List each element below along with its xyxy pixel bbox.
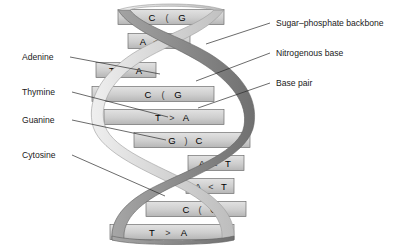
base-letter-right: T [221, 181, 227, 192]
base-bond-glyph: > [165, 228, 170, 238]
base-bond-glyph: > [169, 113, 174, 123]
base-letter-right: G [174, 89, 181, 100]
base-pair-rung: T > A [104, 110, 224, 125]
dna-diagram-figure: C ( G A < T T > A C ( G [0, 0, 413, 247]
base-letter-left: T [155, 112, 161, 123]
base-letter-left: T [149, 227, 155, 238]
base-letter-left: A [140, 36, 147, 47]
base-bond-glyph: ) [185, 136, 188, 146]
base-letter-left: C [183, 204, 190, 215]
base-bond-glyph: ( [199, 205, 202, 215]
label-thymine: Thymine [22, 87, 55, 97]
base-bond-glyph: < [208, 182, 213, 192]
base-bond-glyph: ( [166, 13, 169, 23]
base-letter-left: C [149, 12, 156, 23]
base-letter-right: C [196, 135, 203, 146]
label-cytosine: Cytosine [22, 150, 56, 160]
base-bond-glyph: ( [162, 90, 165, 100]
helix-top-arc [118, 4, 224, 10]
label-adenine: Adenine [22, 52, 54, 62]
base-pair-rung: C ( G [146, 202, 246, 217]
label-nitrogenous-base: Nitrogenous base [276, 48, 344, 58]
leader-line-sugar-phosphate-backbone [206, 23, 270, 44]
base-letter-right: A [183, 112, 190, 123]
base-letter-left: G [168, 135, 175, 146]
leader-line-cytosine [72, 155, 165, 196]
base-letter-left: C [145, 89, 152, 100]
base-letter-right: A [181, 227, 188, 238]
label-guanine: Guanine [22, 115, 55, 125]
right-label-group: Sugar–phosphate backbone Nitrogenous bas… [276, 18, 384, 88]
left-label-group: Adenine Thymine Guanine Cytosine [22, 52, 56, 160]
base-pair-rung: T > A [110, 225, 234, 240]
label-sugar-phosphate-backbone: Sugar–phosphate backbone [276, 18, 384, 28]
base-letter-right: G [178, 12, 185, 23]
dna-diagram-canvas: C ( G A < T T > A C ( G [0, 0, 413, 247]
label-base-pair: Base pair [276, 78, 312, 88]
